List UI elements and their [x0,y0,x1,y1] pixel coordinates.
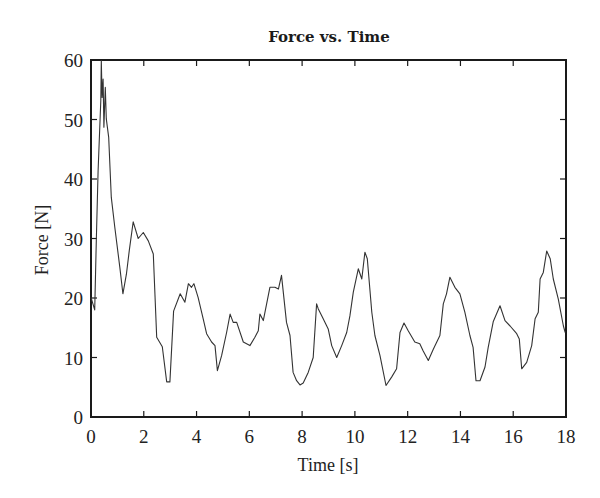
plot-area [91,60,566,417]
x-tick-label: 4 [192,426,202,447]
x-tick-label: 6 [245,426,255,447]
y-tick-label: 0 [74,407,84,428]
x-axis-label: Time [s] [298,455,359,475]
x-tick-label: 0 [86,426,96,447]
chart-title: Force vs. Time [268,28,390,46]
x-axis-tick-labels: 024681012141618 [86,426,575,447]
x-tick-label: 12 [398,426,417,447]
y-tick-label: 50 [64,110,83,131]
x-tick-label: 16 [504,426,523,447]
x-tick-label: 14 [451,426,471,447]
x-tick-label: 8 [297,426,307,447]
y-tick-label: 60 [64,50,83,71]
y-tick-label: 40 [64,169,83,190]
x-tick-label: 10 [345,426,364,447]
y-tick-label: 10 [64,348,83,369]
force-vs-time-chart: Force vs. Time 024681012141618 010203040… [0,0,600,498]
y-axis-tick-labels: 0102030405060 [64,50,83,428]
plot-frame [91,60,566,417]
y-tick-label: 20 [64,288,83,309]
y-axis-label: Force [N] [32,205,52,275]
x-tick-label: 18 [557,426,576,447]
x-tick-label: 2 [139,426,149,447]
y-tick-label: 30 [64,229,83,250]
